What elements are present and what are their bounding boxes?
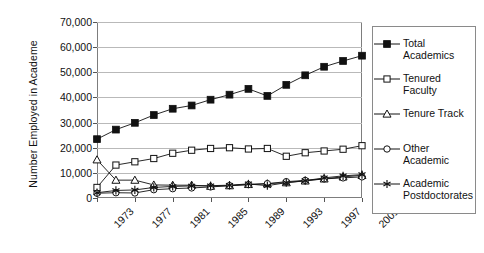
chart-figure: Number Employed in Academe 010,00020,000… xyxy=(0,0,484,253)
x-axis-tick xyxy=(248,198,249,202)
legend: Total AcademicsTenured FacultyTenure Tra… xyxy=(372,26,476,214)
legend-label: Tenured Faculty xyxy=(403,72,475,96)
y-axis-title: Number Employed in Academe xyxy=(27,19,39,209)
x-axis-tick xyxy=(97,198,98,202)
legend-marker-open-circle-icon xyxy=(373,142,403,156)
x-axis-tick-label: 1973 xyxy=(111,205,136,230)
legend-label: Other Academic xyxy=(403,142,475,166)
y-axis-tick-label: 0 xyxy=(86,192,92,204)
legend-label: Tenure Track xyxy=(403,107,464,120)
y-axis-tick-label: 60,000 xyxy=(60,41,92,53)
legend-label-line2: Postdoctorates xyxy=(403,190,473,202)
x-axis-tick-label: 1977 xyxy=(149,205,174,230)
legend-item: Tenure Track xyxy=(373,107,475,129)
legend-marker-filled-square-icon xyxy=(373,37,403,51)
x-axis-tick-label: 1997 xyxy=(338,205,363,230)
x-axis-tick xyxy=(173,198,174,202)
legend-marker-open-triangle-icon xyxy=(373,107,403,121)
plot-area: 010,00020,00030,00040,00050,00060,00070,… xyxy=(97,22,362,198)
x-axis-tick xyxy=(362,198,363,202)
series-layer xyxy=(97,22,362,198)
legend-item: AcademicPostdoctorates xyxy=(373,177,475,199)
y-axis-tick-label: 40,000 xyxy=(60,91,92,103)
y-axis-tick-label: 50,000 xyxy=(60,66,92,78)
x-axis-tick xyxy=(286,198,287,202)
legend-marker-open-square-icon xyxy=(373,72,403,86)
x-axis-tick-label: 1985 xyxy=(224,205,249,230)
x-axis-tick-label: 1993 xyxy=(300,205,325,230)
x-axis-tick xyxy=(211,198,212,202)
legend-marker-asterisk-icon xyxy=(373,177,403,191)
x-axis-tick-label: 1981 xyxy=(187,205,212,230)
y-axis-tick-label: 30,000 xyxy=(60,117,92,129)
x-axis-tick-label: 1989 xyxy=(262,205,287,230)
x-axis-tick xyxy=(324,198,325,202)
legend-label: AcademicPostdoctorates xyxy=(403,177,473,201)
legend-item: Total Academics xyxy=(373,37,475,59)
legend-label: Total Academics xyxy=(403,37,475,61)
y-axis-tick-label: 70,000 xyxy=(60,16,92,28)
y-axis-tick-label: 20,000 xyxy=(60,142,92,154)
x-axis-tick xyxy=(135,198,136,202)
y-axis-tick-label: 10,000 xyxy=(60,167,92,179)
legend-item: Other Academic xyxy=(373,142,475,164)
series-1 xyxy=(94,52,366,142)
legend-item: Tenured Faculty xyxy=(373,72,475,94)
